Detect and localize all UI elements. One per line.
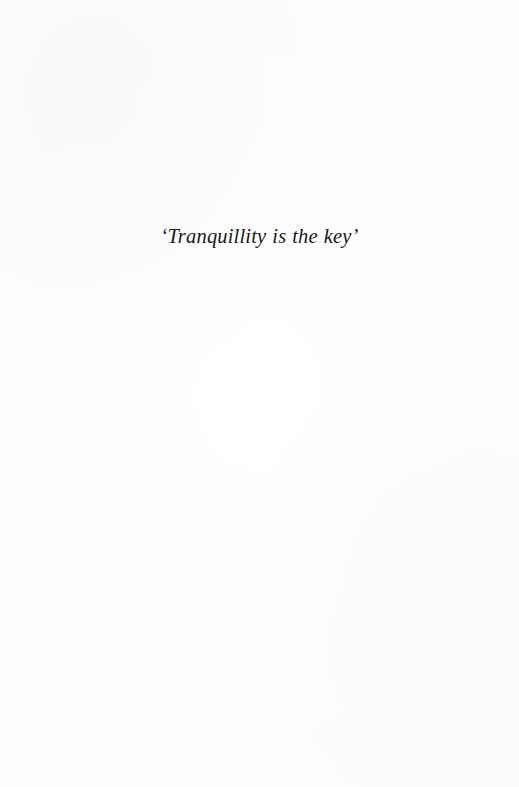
epigraph-block: ‘Tranquillity is the key’ [0, 224, 519, 250]
epigraph-quote: ‘Tranquillity is the key’ [160, 224, 358, 250]
document-page: ‘Tranquillity is the key’ [0, 0, 519, 787]
paper-grain-texture [0, 0, 519, 787]
